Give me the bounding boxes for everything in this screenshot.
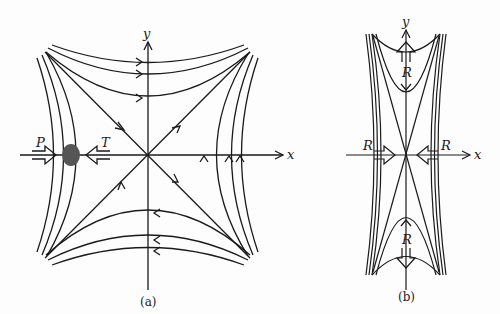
arrow-r-bottom-label: R <box>402 233 412 246</box>
arrow-r-left-label: R <box>363 139 373 152</box>
panel-a-x-label: x <box>287 148 294 161</box>
arrow-r-top-label: R <box>402 66 412 79</box>
arrow-t-label: T <box>101 136 110 149</box>
panel-b-y-label: y <box>402 15 409 28</box>
panel-b-x-label: x <box>474 148 481 161</box>
panel-a-streamlines <box>20 42 283 290</box>
arrow-p-label: P <box>36 136 45 149</box>
panel-a-y-label: y <box>143 27 150 40</box>
flow-diagram-svg <box>0 0 500 314</box>
arrow-r-right-label: R <box>441 139 451 152</box>
panel-b-caption: (b) <box>398 291 415 303</box>
particle-blob <box>62 144 80 166</box>
panel-a-caption: (a) <box>140 296 157 308</box>
figure: y x P T (a) y x R R R R (b) <box>0 0 500 314</box>
